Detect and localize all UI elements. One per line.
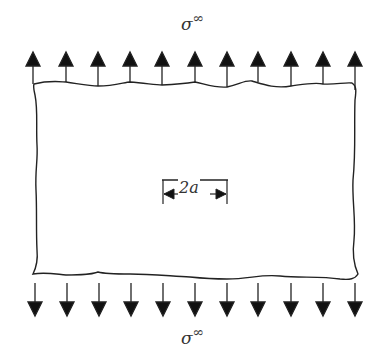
arrow-down-icon (60, 283, 74, 316)
bottom-tension-arrows (28, 283, 362, 316)
arrow-down-icon (348, 283, 362, 316)
arrow-down-icon (316, 283, 330, 316)
dim-arrowhead-left-icon (164, 189, 174, 199)
infinity-superscript: ∞ (193, 324, 205, 340)
arrow-up-icon (59, 52, 73, 82)
arrow-down-icon (28, 283, 42, 316)
arrow-up-icon (91, 52, 105, 86)
arrow-up-icon (123, 52, 137, 82)
arrow-up-icon (284, 52, 298, 86)
infinity-superscript: ∞ (193, 10, 205, 26)
arrow-up-icon (155, 52, 169, 85)
arrow-up-icon (188, 52, 202, 82)
top-tension-arrows (26, 52, 362, 90)
arrow-down-icon (284, 283, 298, 316)
arrow-down-icon (124, 283, 138, 316)
arrow-down-icon (251, 283, 265, 316)
arrow-up-icon (26, 52, 40, 84)
top-stress-label: σ∞ (181, 14, 204, 34)
arrow-down-icon (188, 283, 202, 316)
arrow-down-icon (220, 283, 234, 316)
crack-length-label: 2a (178, 178, 200, 197)
arrow-up-icon (251, 52, 265, 82)
dim-arrowhead-right-icon (216, 189, 226, 199)
arrow-up-icon (348, 52, 362, 90)
arrow-down-icon (92, 283, 106, 316)
arrow-up-icon (220, 52, 234, 87)
arrow-up-icon (316, 52, 330, 84)
arrow-down-icon (156, 283, 170, 316)
sigma-symbol: σ (181, 328, 193, 348)
bottom-stress-label: σ∞ (181, 328, 204, 348)
sigma-symbol: σ (181, 14, 193, 34)
